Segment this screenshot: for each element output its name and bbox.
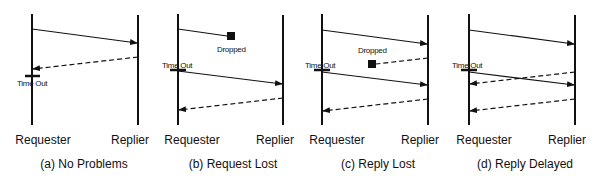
replier-label-c: Replier: [401, 133, 439, 147]
requester-label-b: Requester: [164, 133, 219, 147]
request-arrow: [322, 30, 427, 44]
requester-label-c: Requester: [309, 133, 364, 147]
timeout-label-c: Time Out: [305, 61, 335, 70]
timeout-label-d: Time Out: [452, 61, 482, 70]
timeout-label-a: Time Out: [17, 79, 47, 88]
dropped-label-b: Dropped: [217, 45, 246, 54]
replier-label-b: Replier: [256, 133, 294, 147]
request-arrow-dropped: [178, 29, 227, 36]
request-arrow: [32, 29, 137, 43]
reply-arrow: [323, 99, 428, 111]
replier-label-a: Replier: [111, 133, 149, 147]
reply-arrow: [179, 98, 283, 110]
requester-label-d: Requester: [456, 133, 511, 147]
replier-label-d: Replier: [548, 133, 586, 147]
request-arrow: [469, 30, 574, 44]
timeout-label-b: Time Out: [162, 61, 192, 70]
caption-d: (d) Reply Delayed: [477, 157, 573, 171]
retry-request-arrow: [322, 72, 427, 85]
caption-c: (c) Reply Lost: [341, 157, 415, 171]
requester-label-a: Requester: [15, 133, 70, 147]
dropped-square: [227, 32, 235, 40]
retry-request-arrow: [178, 71, 282, 84]
caption-b: (b) Request Lost: [189, 157, 278, 171]
dropped-label-c: Dropped: [358, 46, 387, 55]
reply-arrow-dropped: [376, 58, 428, 64]
caption-a: (a) No Problems: [40, 157, 127, 171]
panel-a: [25, 14, 138, 125]
dropped-square: [368, 60, 376, 68]
reply-arrow: [33, 57, 138, 69]
reply-arrow: [470, 99, 575, 111]
